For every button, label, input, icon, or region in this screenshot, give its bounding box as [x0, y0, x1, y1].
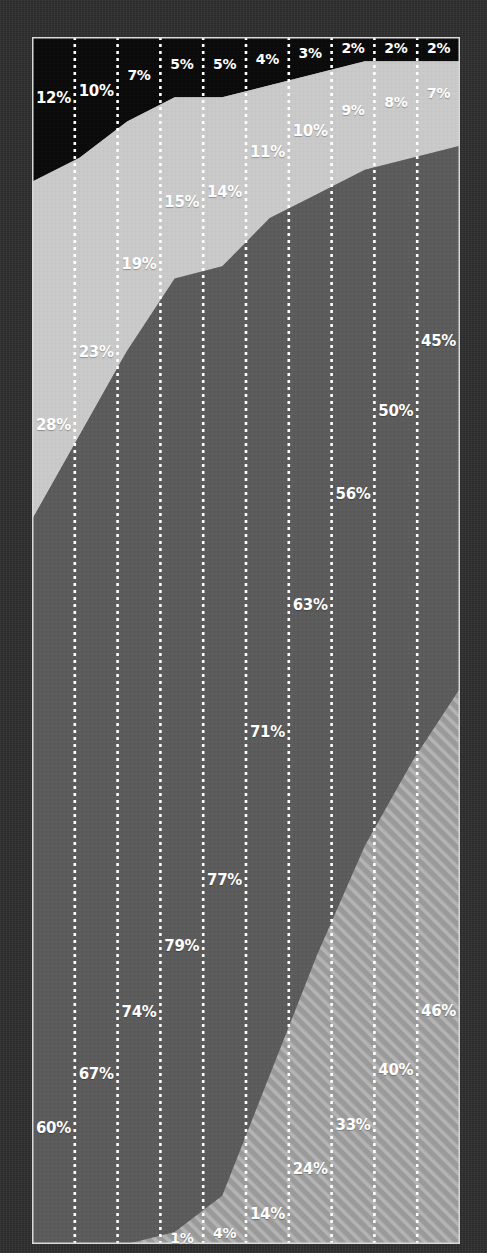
grid-layer — [32, 37, 460, 1244]
stacked-area-chart[interactable]: 12%10%7%5%5%4%3%2%2%2%28%23%19%15%14%11%… — [32, 37, 460, 1244]
